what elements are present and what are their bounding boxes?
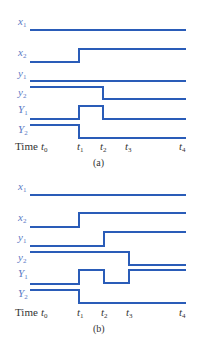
tick-t0: t0 bbox=[41, 140, 48, 154]
tick-t3: t3 bbox=[126, 306, 133, 320]
waveform-y1 bbox=[30, 232, 186, 246]
timing-diagram-a: x1 x2 y1 y2 Y1 Y2 Time t0 t1 t2 t3 t4 (a… bbox=[15, 15, 186, 169]
signal-label-x2: x2 bbox=[17, 46, 27, 60]
waveform-x2 bbox=[30, 49, 186, 62]
tick-t4: t4 bbox=[179, 306, 186, 320]
waveform-Y2 bbox=[30, 290, 186, 303]
waveform-Y1 bbox=[30, 270, 186, 284]
signal-label-x2: x2 bbox=[17, 211, 27, 225]
tick-t4: t4 bbox=[179, 140, 186, 154]
signal-label-x1: x1 bbox=[17, 15, 27, 29]
waveform-x2 bbox=[30, 213, 186, 227]
timing-diagram-b: x1 x2 y1 y2 Y1 Y2 Time t0 t1 t2 t3 t4 (b… bbox=[15, 180, 186, 335]
time-label: Time bbox=[15, 140, 38, 152]
signal-label-Y1: Y1 bbox=[18, 267, 28, 281]
tick-t2: t2 bbox=[101, 306, 108, 320]
signal-label-Y1: Y1 bbox=[18, 103, 28, 117]
signal-label-x1: x1 bbox=[17, 180, 27, 194]
signal-label-y1: y1 bbox=[17, 231, 27, 245]
signal-label-y2: y2 bbox=[17, 251, 27, 265]
waveform-y2 bbox=[30, 87, 186, 99]
tick-t1: t1 bbox=[77, 306, 84, 320]
caption-a: (a) bbox=[93, 157, 104, 169]
waveform-Y2 bbox=[30, 125, 186, 138]
caption-b: (b) bbox=[93, 323, 105, 335]
waveform-y2 bbox=[30, 252, 186, 265]
signal-label-y2: y2 bbox=[17, 86, 27, 100]
signal-label-Y2: Y2 bbox=[18, 287, 28, 301]
tick-t0: t0 bbox=[41, 306, 48, 320]
tick-t3: t3 bbox=[125, 140, 132, 154]
tick-t1: t1 bbox=[77, 140, 84, 154]
signal-label-Y2: Y2 bbox=[18, 123, 28, 137]
tick-t2: t2 bbox=[100, 140, 107, 154]
time-label: Time bbox=[15, 306, 38, 318]
signal-label-y1: y1 bbox=[17, 67, 27, 81]
timing-diagrams: x1 x2 y1 y2 Y1 Y2 Time t0 t1 t2 t3 t4 (a… bbox=[0, 0, 199, 345]
waveform-Y1 bbox=[30, 106, 186, 119]
